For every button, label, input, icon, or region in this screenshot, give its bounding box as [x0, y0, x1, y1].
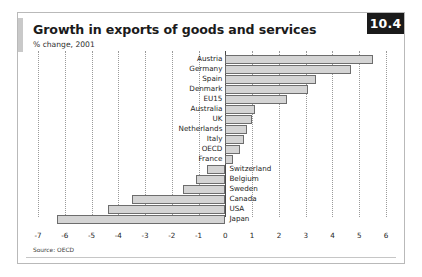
bar	[207, 165, 226, 174]
x-tick-label: -7	[34, 231, 41, 240]
category-label: Italy	[207, 134, 223, 144]
category-label: EU15	[203, 94, 222, 104]
category-label: Spain	[202, 74, 222, 84]
bar	[225, 125, 246, 134]
x-tick-label: 2	[277, 231, 282, 240]
bar	[196, 175, 225, 184]
bar	[225, 135, 244, 144]
category-label: Denmark	[189, 84, 222, 94]
category-label: Germany	[189, 64, 222, 74]
category-label: Switzerland	[229, 164, 271, 174]
bar	[183, 185, 226, 194]
category-label: Belgium	[229, 174, 258, 184]
bar-row: Belgium	[20, 175, 391, 185]
bar-row: Australia	[20, 105, 391, 115]
x-tick-label: -3	[141, 231, 148, 240]
category-label: Netherlands	[179, 124, 223, 134]
title-accent-bar	[18, 18, 23, 52]
category-label: Sweden	[229, 184, 257, 194]
category-label: Australia	[191, 104, 223, 114]
bar	[225, 85, 308, 94]
bar	[225, 105, 254, 114]
x-tick-label: 6	[384, 231, 389, 240]
category-label: Japan	[229, 214, 249, 224]
footer-divider	[26, 257, 396, 258]
figure-panel: 10.4 Growth in exports of goods and serv…	[17, 12, 405, 264]
bar	[225, 55, 372, 64]
bar-row: France	[20, 155, 391, 165]
x-tick-label: -2	[168, 231, 175, 240]
x-tick-label: 3	[303, 231, 308, 240]
bar-row: Japan	[20, 215, 391, 225]
x-tick-label: 4	[330, 231, 335, 240]
bar-row: USA	[20, 205, 391, 215]
x-tick-label: -1	[195, 231, 202, 240]
bar	[225, 75, 316, 84]
category-label: Austria	[197, 54, 222, 64]
bar-row: Sweden	[20, 185, 391, 195]
category-label: OECD	[202, 144, 223, 154]
chart-subtitle: % change, 2001	[33, 40, 95, 49]
bar	[225, 65, 351, 74]
category-label: Canada	[229, 194, 256, 204]
bar	[132, 195, 226, 204]
bar	[225, 115, 252, 124]
category-label: USA	[229, 204, 244, 214]
category-label: France	[198, 154, 222, 164]
x-tick-label: -4	[115, 231, 122, 240]
bar-row: Switzerland	[20, 165, 391, 175]
plot-area: -7-6-5-4-3-2-10123456AustriaGermanySpain…	[20, 51, 391, 227]
category-label: UK	[212, 114, 222, 124]
bar-row: Netherlands	[20, 125, 391, 135]
figure-number-badge: 10.4	[367, 13, 404, 34]
bar	[225, 145, 240, 154]
plot-inner: -7-6-5-4-3-2-10123456AustriaGermanySpain…	[20, 51, 391, 227]
x-tick-label: -6	[61, 231, 68, 240]
bar-row: Canada	[20, 195, 391, 205]
x-tick-label: 1	[250, 231, 255, 240]
bar	[57, 215, 226, 224]
bar	[225, 95, 287, 104]
x-tick-label: 5	[357, 231, 362, 240]
chart-title: Growth in exports of goods and services	[33, 22, 316, 37]
source-note: Source: OECD	[33, 247, 74, 253]
x-tick-label: 0	[223, 231, 228, 240]
bar	[225, 155, 233, 164]
x-tick-label: -5	[88, 231, 95, 240]
bar	[108, 205, 226, 214]
